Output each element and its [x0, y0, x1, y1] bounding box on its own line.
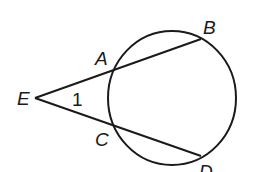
- label-d: D: [199, 161, 213, 172]
- label-b: B: [203, 17, 216, 38]
- angle-label-1: 1: [72, 89, 83, 110]
- label-a: A: [94, 48, 108, 69]
- label-e: E: [17, 88, 30, 109]
- secant-ed: [35, 98, 201, 156]
- secant-eb: [35, 39, 201, 98]
- label-c: C: [95, 129, 109, 150]
- secant-diagram: E A B C D 1: [0, 0, 254, 172]
